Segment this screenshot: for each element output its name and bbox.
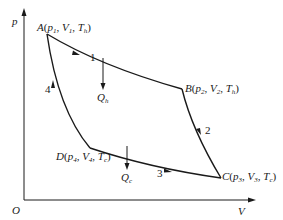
process-2-curve [182,89,221,178]
origin-label: O [12,205,20,216]
y-axis-label: p [12,16,18,27]
point-a-label: A(p1, V1, Th) [37,22,91,35]
process-4-direction-arrow-icon [51,80,55,88]
heat-hot-arrow-icon [101,83,106,90]
heat-cold-label: Qc [121,172,132,185]
point-d-label: D(p4, V4, Tc) [56,151,111,164]
y-axis-arrow-icon [22,8,27,16]
process-1-number: 1 [90,52,96,63]
point-b-label: B(p2, V2, Th) [185,83,239,96]
process-1-curve [47,34,182,89]
process-4-curve [47,34,90,148]
x-axis-arrow-icon [248,198,256,203]
heat-hot-label: Qh [97,92,108,105]
process-2-number: 2 [205,125,211,136]
x-axis-label: V [238,206,245,217]
point-c-label: C(p3, V3, Tc) [222,171,276,184]
heat-cold-arrow-icon [125,163,130,170]
process-4-number: 4 [45,84,51,95]
process-3-number: 3 [157,168,163,179]
